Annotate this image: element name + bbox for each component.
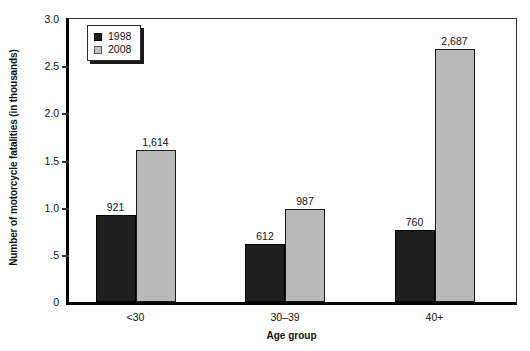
y-axis-tick-label: 2.5 bbox=[44, 60, 59, 72]
x-axis-category-label: <30 bbox=[127, 311, 145, 323]
y-axis-tick bbox=[62, 255, 69, 257]
legend-item-1998[interactable]: 1998 bbox=[94, 30, 131, 43]
y-axis-tick-label: 2.0 bbox=[44, 107, 59, 119]
bar-chart: Number of motorcycle fatalities (in thou… bbox=[0, 0, 530, 351]
y-axis-tick-label: 1.0 bbox=[44, 202, 59, 214]
bar-2008-40+[interactable]: 2,687 bbox=[435, 49, 475, 302]
legend-item-label: 1998 bbox=[108, 30, 131, 43]
y-axis-tick-label: 0 bbox=[53, 296, 59, 308]
x-axis-category-label: 30–39 bbox=[270, 311, 299, 323]
legend-swatch-icon bbox=[94, 33, 102, 41]
bar-value-label: 2,687 bbox=[441, 35, 467, 47]
y-axis-tick bbox=[62, 113, 69, 115]
bar-1998-<30[interactable]: 921 bbox=[96, 215, 136, 302]
bar-value-label: 921 bbox=[107, 201, 125, 213]
y-axis-tick bbox=[62, 66, 69, 68]
y-axis-tick-label: 3.0 bbox=[44, 13, 59, 25]
bar-1998-30–39[interactable]: 612 bbox=[245, 244, 285, 302]
x-axis-category-label: 40+ bbox=[426, 311, 444, 323]
y-axis-tick bbox=[62, 161, 69, 163]
bar-value-label: 612 bbox=[256, 230, 274, 242]
y-axis-tick-label: .5 bbox=[50, 249, 59, 261]
y-axis-title: Number of motorcycle fatalities (in thou… bbox=[8, 8, 19, 308]
legend-item-2008[interactable]: 2008 bbox=[94, 43, 131, 56]
y-axis-tick-label: 1.5 bbox=[44, 155, 59, 167]
bar-value-label: 760 bbox=[406, 216, 424, 228]
legend-swatch-icon bbox=[94, 46, 102, 54]
bar-2008-30–39[interactable]: 987 bbox=[285, 209, 325, 302]
plot-inner: 0.51.01.52.02.53.09211,6146129877602,687 bbox=[69, 19, 516, 302]
bar-value-label: 987 bbox=[296, 195, 314, 207]
bar-1998-40+[interactable]: 760 bbox=[395, 230, 435, 302]
bar-2008-<30[interactable]: 1,614 bbox=[136, 150, 176, 302]
x-axis-title: Age group bbox=[66, 330, 517, 341]
bar-value-label: 1,614 bbox=[142, 136, 168, 148]
y-axis-tick bbox=[62, 208, 69, 210]
legend-item-label: 2008 bbox=[108, 43, 131, 56]
plot-area: 0.51.01.52.02.53.09211,6146129877602,687 bbox=[66, 18, 517, 305]
chart-legend: 19982008 bbox=[87, 25, 141, 61]
